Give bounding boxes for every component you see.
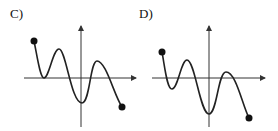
- graph-d: [152, 26, 265, 127]
- graph-c: [24, 26, 136, 127]
- graph-c-end-dot: [119, 104, 126, 111]
- graph-d-start-dot: [159, 49, 166, 56]
- graphs-canvas: [0, 0, 278, 131]
- graph-c-curve: [34, 41, 122, 107]
- graph-c-start-dot: [31, 38, 38, 45]
- graph-d-curve: [162, 52, 249, 118]
- graph-d-end-dot: [246, 115, 253, 122]
